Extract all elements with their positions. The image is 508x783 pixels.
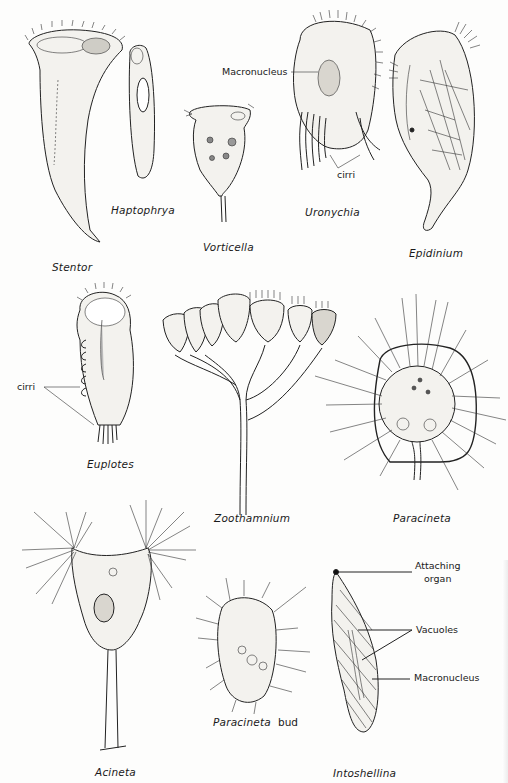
acineta-drawing: [22, 500, 196, 750]
label-acineta: Acineta: [95, 767, 136, 778]
annotation-uronychia-macronucleus: Macronucleus: [222, 67, 287, 77]
vorticella-drawing: [184, 104, 254, 222]
paracineta-drawing: [315, 294, 506, 490]
annotation-attaching-organ-1: Attaching: [415, 561, 461, 571]
label-epidinium: Epidinium: [409, 248, 463, 259]
annotation-euplotes-cirri: cirri: [17, 382, 35, 392]
label-paracineta: Paracineta: [393, 513, 451, 524]
epidinium-drawing: [389, 22, 480, 230]
label-stentor: Stentor: [52, 262, 92, 273]
label-vorticella: Vorticella: [203, 242, 254, 253]
paracineta-bud-drawing: [196, 578, 310, 714]
annotation-uronychia-cirri: cirri: [337, 170, 355, 180]
haptophrya-drawing: [129, 45, 154, 178]
label-paracineta-bud: Paracineta: [213, 717, 271, 728]
organism-drawings: [0, 0, 508, 783]
label-uronychia: Uronychia: [305, 207, 360, 218]
zoothamnium-drawing: [163, 290, 336, 515]
label-intoshellina: Intoshellina: [333, 768, 396, 779]
label-euplotes: Euplotes: [87, 459, 134, 470]
scan-edge-shadow: [502, 560, 508, 783]
intoshellina-drawing: [332, 570, 412, 733]
label-zoothamnium: Zoothamnium: [214, 513, 290, 524]
annotation-vacuoles: Vacuoles: [416, 625, 458, 635]
annotation-attaching-organ-2: organ: [424, 574, 451, 584]
euplotes-drawing: [44, 282, 133, 444]
annotation-intoshellina-macronucleus: Macronucleus: [414, 673, 479, 683]
stentor-drawing: [25, 20, 125, 242]
label-haptophrya: Haptophrya: [111, 205, 175, 216]
label-bud: bud: [278, 717, 298, 728]
illustration-plate: Stentor Haptophrya Vorticella Uronychia …: [0, 0, 508, 783]
uronychia-drawing: [291, 10, 383, 170]
